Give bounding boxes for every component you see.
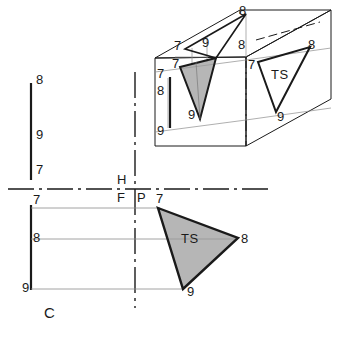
pictorial-label-front-7: 7: [172, 57, 179, 70]
pictorial-label-ts: TS: [271, 68, 289, 81]
pictorial-label-top-9: 9: [202, 36, 209, 49]
ref-label-f: F: [117, 191, 125, 204]
pictorial-label-aux-8: 8: [308, 38, 315, 51]
ref-label-h: H: [117, 173, 126, 186]
ortho-label-mid-9: 9: [36, 128, 43, 141]
aux-label-ts: TS: [181, 232, 199, 245]
aux-label-8: 8: [241, 232, 248, 245]
ortho-label-front-7: 7: [33, 193, 40, 206]
pictorial-label-aux-7: 7: [248, 58, 255, 71]
ortho-label-bottom-7: 7: [36, 163, 43, 176]
auxiliary-ts-triangle-path: [158, 208, 238, 289]
auxiliary-ts-triangle: [158, 208, 238, 289]
pictorial-label-aux-9: 9: [277, 110, 284, 123]
pictorial-label-top-8: 8: [239, 4, 246, 17]
pictorial-label-front-8: 8: [238, 38, 245, 51]
constr-line-b: [155, 120, 246, 132]
ortho-label-top-8: 8: [36, 73, 43, 86]
ortho-label-front-9: 9: [22, 281, 29, 294]
pictorial-label-edge-7: 7: [157, 67, 164, 80]
ortho-label-front-8: 8: [33, 231, 40, 244]
technical-drawing-canvas: [0, 0, 342, 338]
drawing-page: 8 9 7 8 7 9 7 8 9 7 8 9 TS 8 9 7 H F P 7…: [0, 0, 342, 338]
constr-line-f: [246, 108, 331, 120]
pictorial-label-edge-8: 8: [157, 84, 164, 97]
aux-label-7: 7: [156, 192, 163, 205]
figure-caption: C: [44, 305, 55, 320]
pictorial-shaded-triangle: [180, 58, 216, 119]
aux-label-9: 9: [187, 285, 194, 298]
pictorial-label-edge-9: 9: [157, 124, 164, 137]
pictorial-label-front-9: 9: [188, 108, 195, 121]
pictorial-label-top-7: 7: [174, 39, 181, 52]
ref-label-p: P: [137, 191, 146, 204]
isometric-box-outline: [155, 10, 331, 146]
